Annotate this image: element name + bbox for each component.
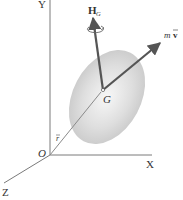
svg-text:r: r	[56, 134, 60, 143]
angular-momentum-label: H G	[88, 4, 101, 17]
center-of-mass-point	[101, 88, 104, 91]
position-vector-label: r	[56, 134, 60, 143]
origin-label: O	[38, 147, 46, 159]
svg-text:G: G	[96, 10, 101, 17]
y-axis-label: Y	[38, 0, 46, 10]
svg-text:v: v	[173, 30, 178, 40]
rigid-body-momentum-diagram: Y X Z O G H G m v r	[0, 0, 183, 200]
svg-text:m: m	[164, 30, 171, 40]
center-of-mass-label: G	[103, 93, 111, 105]
linear-momentum-label: m v	[164, 30, 178, 40]
x-axis-label: X	[146, 158, 154, 170]
z-axis	[4, 155, 50, 183]
z-axis-label: Z	[2, 186, 9, 198]
